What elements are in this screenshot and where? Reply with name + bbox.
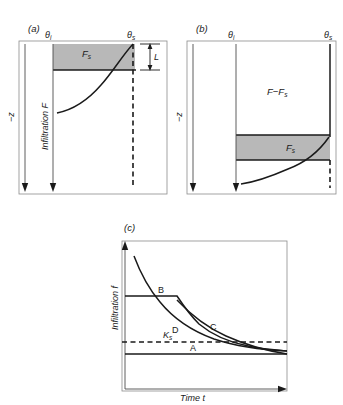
panel-a-infiltration-axis-label: Infiltration F [40, 102, 50, 150]
panel-b-depth-axis-label: −z [174, 112, 184, 122]
panel-a-theta-i-label: θi [45, 30, 52, 41]
panel-c-label-B: B [158, 285, 164, 295]
panel-c-label-D: D [172, 325, 179, 335]
panel-c-curve-C [134, 256, 287, 351]
panel-b-theta-i-arrow [233, 183, 239, 192]
panel-b: (b) θi θs −z F−Fs Fs [174, 23, 336, 194]
panel-a-depth-axis-label: −z [6, 112, 16, 122]
panel-a-infiltration-axis-arrow [50, 183, 56, 192]
panel-c-label: (c) [124, 222, 135, 233]
panel-b-depth-axis-arrow [190, 183, 196, 192]
panel-c-frame [122, 241, 287, 391]
figure-root: (a) θi θs −z Infiltration F Fs [0, 0, 343, 405]
panel-b-label: (b) [196, 23, 208, 34]
panel-a-theta-s-label: θs [127, 30, 136, 41]
panel-a-L-label: L [154, 52, 159, 62]
infiltration-figure: (a) θi θs −z Infiltration F Fs [0, 0, 343, 405]
panel-c-y-axis-arrow [122, 241, 128, 250]
panel-b-frame [187, 41, 336, 194]
panel-c-label-A: A [190, 343, 196, 353]
panel-b-f-minus-fs-label: F−Fs [267, 86, 288, 98]
panel-c: (c) Infiltration f Time t A Ks B C [110, 222, 287, 403]
panel-c-y-axis-label: Infiltration f [110, 284, 120, 330]
panel-a-label: (a) [28, 23, 40, 34]
panel-c-x-axis-label: Time t [180, 393, 205, 403]
panel-b-theta-s-label: θs [324, 30, 333, 41]
panel-a: (a) θi θs −z Infiltration F Fs [6, 23, 167, 194]
panel-b-saturated-zone [236, 135, 330, 160]
panel-b-theta-i-label: θi [228, 30, 235, 41]
panel-a-depth-axis-arrow [22, 183, 28, 192]
